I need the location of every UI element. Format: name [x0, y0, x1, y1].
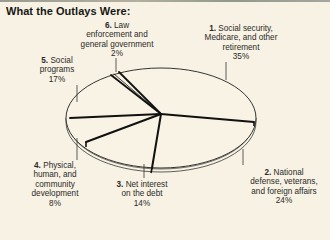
label-slice-6: 6. Law enforcement and general governmen… — [76, 21, 158, 59]
label-slice-5: 5. Social programs 17% — [32, 56, 82, 84]
label-slice-4: 4. Physical, human, and community develo… — [20, 161, 90, 208]
label-slice-3: 3. Net interest on the debt 14% — [111, 180, 173, 208]
label-slice-2: 2. National defense, veterans, and forei… — [244, 168, 324, 206]
label-slice-1: 1. Social security, Medicare, and other … — [196, 24, 286, 62]
